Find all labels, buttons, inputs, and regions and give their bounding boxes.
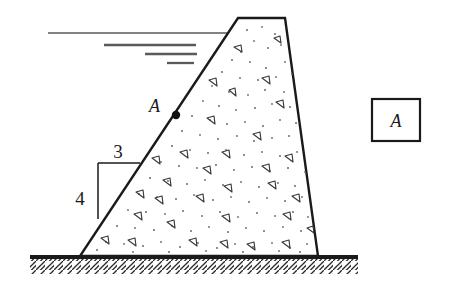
- legend-group: A: [372, 99, 420, 141]
- ground-group: [30, 257, 358, 274]
- ground-hatching: [30, 259, 358, 274]
- water-surface-group: [48, 33, 236, 63]
- slope-label-horizontal: 3: [113, 141, 123, 162]
- point-a-group[interactable]: A: [148, 96, 180, 119]
- slope-label-vertical: 4: [75, 188, 85, 209]
- dam-diagram-figure: 3 4 A A: [0, 0, 454, 301]
- diagram-canvas: 3 4 A A: [0, 0, 454, 301]
- dam-body: [80, 18, 318, 256]
- point-a-marker[interactable]: [172, 111, 180, 119]
- dam-outline: [80, 18, 318, 256]
- point-a-label: A: [148, 96, 161, 116]
- legend-box-label: A: [390, 111, 403, 131]
